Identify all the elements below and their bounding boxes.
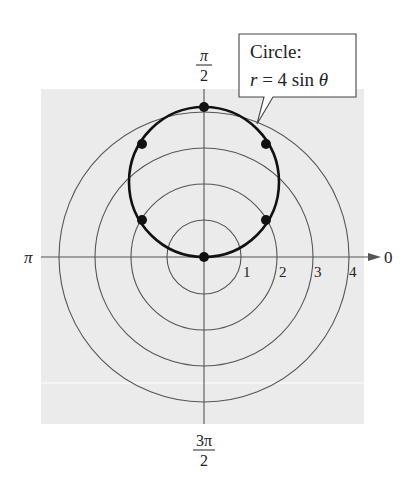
point-2pi-3 — [137, 139, 147, 149]
point-pi-3 — [261, 139, 271, 149]
tick-label-1: 1 — [243, 264, 251, 280]
point-pi-6 — [261, 215, 271, 225]
point-5pi-6 — [137, 215, 147, 225]
point-origin — [199, 252, 209, 262]
angle-label-pi: π — [24, 248, 33, 267]
tick-label-2: 2 — [279, 264, 287, 280]
three-half-pi-denominator: 2 — [200, 452, 208, 469]
half-pi-denominator: 2 — [200, 67, 208, 84]
callout-eq-body: = 4 sin — [257, 69, 318, 90]
callout-title: Circle: — [250, 41, 302, 62]
three-half-pi-numerator: 3π — [196, 432, 212, 449]
angle-label-0: 0 — [384, 248, 393, 267]
tick-label-4: 4 — [349, 264, 357, 280]
arrow-icon — [368, 253, 381, 261]
angle-label-three-half-pi: 3π 2 — [193, 432, 215, 469]
callout-theta: θ — [319, 69, 328, 90]
tick-label-3: 3 — [314, 264, 322, 280]
callout-equation: r = 4 sin θ — [250, 69, 328, 90]
angle-label-half-pi: π 2 — [196, 47, 212, 84]
half-pi-numerator: π — [200, 47, 209, 64]
point-pi-2 — [199, 102, 209, 112]
polar-graph: 1 2 3 4 0 π π 2 3π 2 Circle: r = 4 sin θ — [0, 0, 413, 488]
